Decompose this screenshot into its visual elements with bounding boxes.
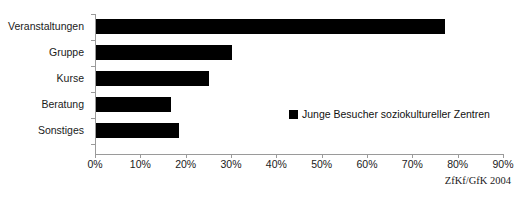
x-axis-label: 50% [311, 158, 332, 170]
value-axis-labels: 0%10%20%30%40%50%60%70%80%90% [95, 158, 515, 172]
x-axis-label: 70% [402, 158, 423, 170]
bar-row [96, 97, 171, 112]
bar-beratung [96, 97, 171, 112]
category-label: Sonstiges [0, 123, 84, 138]
x-axis-label: 80% [447, 158, 468, 170]
y-axis-tick [91, 118, 95, 119]
category-label: Beratung [0, 97, 84, 112]
y-axis-tick [91, 92, 95, 93]
clipped-title-remnant [0, 0, 519, 6]
y-axis-tick [91, 14, 95, 15]
bar-row [96, 71, 209, 86]
x-axis-label: 40% [266, 158, 287, 170]
y-axis-tick [91, 144, 95, 145]
x-axis-label: 20% [175, 158, 196, 170]
chart-screenshot: VeranstaltungenGruppeKurseBeratungSonsti… [0, 0, 519, 200]
x-axis-label: 10% [130, 158, 151, 170]
filled-square-marker-icon [289, 110, 298, 119]
x-axis-line [95, 154, 504, 155]
chart-legend: Junge Besucher soziokultureller Zentren [289, 108, 490, 120]
x-axis-label: 60% [356, 158, 377, 170]
category-label: Kurse [0, 71, 84, 86]
category-label: Veranstaltungen [0, 19, 84, 34]
bar-row [96, 123, 179, 138]
y-axis-tick [91, 40, 95, 41]
x-axis-label: 90% [492, 158, 513, 170]
y-axis-tick [91, 66, 95, 67]
bar-gruppe [96, 45, 232, 60]
bar-veranstaltungen [96, 19, 445, 34]
bar-row [96, 19, 445, 34]
legend-label: Junge Besucher soziokultureller Zentren [302, 108, 490, 120]
x-axis-label: 30% [220, 158, 241, 170]
bar-kurse [96, 71, 209, 86]
bar-sonstiges [96, 123, 179, 138]
category-label: Gruppe [0, 45, 84, 60]
bar-row [96, 45, 232, 60]
plot-area [95, 14, 503, 154]
category-axis-labels: VeranstaltungenGruppeKurseBeratungSonsti… [0, 14, 90, 154]
x-axis-label: 0% [87, 158, 102, 170]
source-note: ZfKf/GfK 2004 [445, 175, 511, 186]
